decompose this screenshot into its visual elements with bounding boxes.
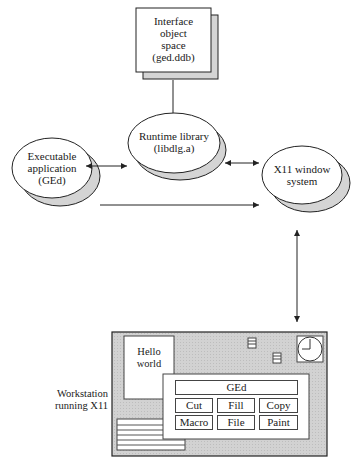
macro-button[interactable]: Macro — [175, 415, 213, 430]
label-line: world — [124, 358, 174, 370]
label-line: Interface — [136, 15, 211, 27]
paint-button[interactable]: Paint — [259, 415, 298, 430]
label-line: space — [136, 39, 211, 51]
label-line: running X11 — [46, 400, 108, 412]
label-line: Workstation — [46, 388, 108, 400]
file-button[interactable]: File — [217, 415, 255, 430]
label-line: (GEd) — [12, 174, 92, 186]
executable-app-label: Executable application (GEd) — [12, 150, 92, 186]
clock-icon — [297, 336, 323, 362]
workstation-label: Workstation running X11 — [46, 388, 108, 412]
label-line: Hello — [124, 346, 174, 358]
runtime-library-label: Runtime library (libdlg.a) — [128, 130, 220, 154]
fill-button[interactable]: Fill — [217, 398, 255, 413]
label-line: Runtime library — [128, 130, 220, 142]
menu-icon-2 — [273, 353, 281, 363]
label-line: X11 window — [262, 163, 342, 175]
label-line: (libdlg.a) — [128, 142, 220, 154]
ged-title-bar: GEd — [175, 380, 298, 395]
label-line: Executable — [12, 150, 92, 162]
menu-icon-1 — [248, 338, 256, 348]
label-line: system — [262, 175, 342, 187]
x11-system-label: X11 window system — [262, 163, 342, 187]
hello-world-window: Hello world — [124, 346, 174, 370]
label-line: (ged.ddb) — [136, 51, 211, 63]
interface-space-label: Interface object space (ged.ddb) — [136, 15, 211, 63]
copy-button[interactable]: Copy — [259, 398, 298, 413]
label-line: application — [12, 162, 92, 174]
label-line: object — [136, 27, 211, 39]
cut-button[interactable]: Cut — [175, 398, 213, 413]
